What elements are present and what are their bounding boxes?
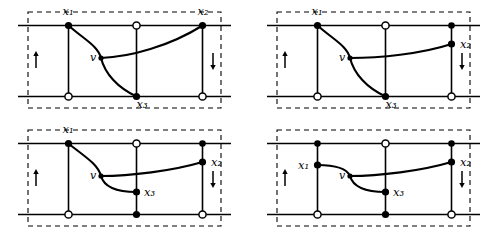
vertex-x2-label: x₂ [460, 155, 471, 169]
open-circle-top-middle [133, 22, 140, 29]
right-arrow-head-icon [459, 183, 464, 188]
vertex-x2-marker [199, 22, 206, 29]
filled-circle-bottom-middle [133, 211, 140, 218]
open-circle-top-middle [382, 140, 389, 147]
panel-dashed-border [277, 12, 470, 108]
open-circle-bottom-right [448, 211, 455, 218]
panel-top-right: x₁ x₂ x₃ v [249, 0, 498, 121]
left-arrow-head-icon [282, 169, 287, 174]
filled-circle-top-right [448, 140, 455, 147]
vertex-x3-marker [133, 188, 140, 195]
left-arrow-head-icon [33, 51, 38, 56]
vertex-v-label: v [90, 169, 97, 182]
vertex-x3-label: x₃ [385, 97, 396, 111]
vertex-x2-label: x₂ [197, 4, 208, 18]
vertex-v-label: v [339, 169, 346, 182]
open-circle-bottom-right [199, 93, 206, 100]
vertex-x2-label: x₂ [211, 155, 222, 169]
left-arrow-head-icon [33, 169, 38, 174]
vertex-x3-label: x₃ [144, 185, 155, 199]
arc-v-x2 [101, 26, 203, 59]
vertex-x2-marker [199, 158, 206, 165]
vertex-x2-marker [448, 158, 455, 165]
arc-v-x2 [350, 162, 452, 176]
vertex-v-label: v [339, 51, 346, 64]
panel-dashed-border [28, 12, 221, 108]
vertex-x1-label: x₁ [62, 122, 73, 136]
open-circle-bottom-left [65, 211, 72, 218]
right-arrow-head-icon [210, 183, 215, 188]
panel-bottom-left: x₁ x₂ x₃ v [0, 121, 249, 241]
open-circle-bottom-left [314, 93, 321, 100]
vertex-v-marker [98, 173, 103, 178]
vertex-x1-label: x₁ [311, 4, 322, 18]
open-circle-bottom-left [314, 211, 321, 218]
figure-container: x₁ x₂ x₃ v x₁ x₂ x₃ v [0, 0, 498, 241]
filled-circle-top-right [199, 140, 206, 147]
filled-circle-bottom-middle [382, 211, 389, 218]
right-arrow-head-icon [459, 65, 464, 70]
vertex-x2-label: x₂ [460, 37, 471, 51]
open-circle-top-middle [133, 140, 140, 147]
filled-circle-top-left [314, 140, 321, 147]
open-circle-top-middle [382, 22, 389, 29]
vertex-x1-marker [65, 140, 72, 147]
vertex-v-marker [347, 55, 352, 60]
panel-dashed-border [277, 130, 470, 226]
vertex-x3-label: x₃ [393, 185, 404, 199]
arc-x1-v-x3 [318, 165, 386, 192]
open-circle-bottom-right [199, 211, 206, 218]
open-circle-bottom-left [65, 93, 72, 100]
vertex-v-marker [98, 55, 103, 60]
vertex-v-marker [347, 173, 352, 178]
filled-circle-top-right [448, 22, 455, 29]
arc-v-x2 [350, 44, 452, 58]
vertex-x1-marker [314, 22, 321, 29]
arc-x1-v-x3 [318, 26, 386, 97]
vertex-x3-marker [382, 188, 389, 195]
panel-bottom-right: x₁ x₂ x₃ v [249, 121, 498, 241]
vertex-x3-label: x₃ [136, 97, 147, 111]
vertex-x1-marker [65, 22, 72, 29]
vertex-x1-label: x₁ [62, 4, 73, 18]
arc-x1-v-x3 [69, 144, 137, 193]
left-arrow-head-icon [282, 51, 287, 56]
panel-dashed-border [28, 130, 221, 226]
right-arrow-head-icon [210, 65, 215, 70]
arc-v-x2 [101, 162, 203, 176]
open-circle-bottom-right [448, 93, 455, 100]
vertex-x1-label: x₁ [298, 158, 309, 172]
vertex-v-label: v [90, 51, 97, 64]
vertex-x2-marker [448, 40, 455, 47]
panel-top-left: x₁ x₂ x₃ v [0, 0, 249, 121]
vertex-x1-marker [314, 161, 321, 168]
arc-x1-v-x3 [69, 26, 137, 97]
